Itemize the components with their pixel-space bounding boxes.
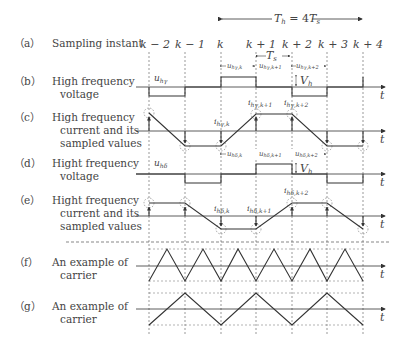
period-header: Th = 4Ts — [222, 12, 362, 26]
svg-text:ihδ,k+2: ihδ,k+2 — [284, 186, 309, 196]
svg-text:t: t — [380, 89, 385, 102]
svg-text:uhδ,k: uhδ,k — [227, 150, 242, 158]
svg-text:k − 2: k − 2 — [140, 38, 170, 51]
svg-text:ihγ,k: ihγ,k — [214, 117, 230, 128]
svg-text:ihδ,k+1: ihδ,k+1 — [247, 204, 271, 214]
waveform-d-voltage-delta: t uhδ Vh — [136, 158, 385, 189]
svg-text:k + 2: k + 2 — [282, 38, 312, 51]
svg-text:k + 4: k + 4 — [353, 38, 383, 51]
svg-text:uhδ: uhδ — [154, 158, 168, 169]
svg-text:t: t — [380, 176, 385, 189]
svg-text:uhγ: uhγ — [154, 73, 168, 85]
svg-text:uhγ,k+1: uhγ,k+1 — [259, 62, 282, 71]
waveform-c-current-gamma: t ihγ,k ihγ,k+1 ihγ,k+2 — [136, 98, 385, 151]
svg-text:Vh: Vh — [300, 162, 312, 176]
sampling-instant-labels: k − 2 k − 1 k k + 1 k + 2 k + 3 k + 4 — [140, 38, 383, 51]
svg-text:k + 3: k + 3 — [318, 38, 348, 51]
waveform-g-carrier: t — [136, 293, 385, 325]
svg-text:t: t — [380, 311, 385, 324]
u-hdelta-segments: uhδ,k uhδ,k+1 uhδ,k+2 — [222, 149, 326, 158]
svg-text:uhδ,k+2: uhδ,k+2 — [295, 150, 318, 158]
svg-text:uhδ,k+1: uhδ,k+1 — [259, 150, 282, 158]
waveform-f-carrier: t — [136, 249, 385, 281]
svg-text:ihγ,k+2: ihγ,k+2 — [284, 98, 309, 109]
svg-text:ihγ,k+1: ihγ,k+1 — [248, 98, 272, 109]
svg-text:t: t — [380, 268, 385, 281]
svg-text:ihδ,k: ihδ,k — [214, 204, 230, 214]
svg-text:Vh: Vh — [300, 74, 312, 88]
waveform-b-voltage-gamma: t uhγ Vh — [136, 73, 385, 102]
svg-text:k − 1: k − 1 — [175, 38, 205, 51]
waveform-e-current-delta: t ihδ,k ihδ,k+1 ihδ,k+2 — [136, 186, 385, 234]
svg-text:t: t — [380, 218, 385, 231]
svg-text:uhγ,k: uhγ,k — [227, 62, 242, 71]
svg-text:t: t — [380, 133, 385, 146]
period-label: Th = 4Ts — [274, 12, 320, 26]
svg-text:k: k — [217, 38, 224, 51]
ts-annotation: Ts — [258, 49, 290, 63]
timing-diagram: Th = 4Ts k − 2 k − 1 k k + 1 k + 2 k + 3… — [0, 0, 409, 347]
svg-text:uhγ,k+2: uhγ,k+2 — [296, 62, 319, 71]
